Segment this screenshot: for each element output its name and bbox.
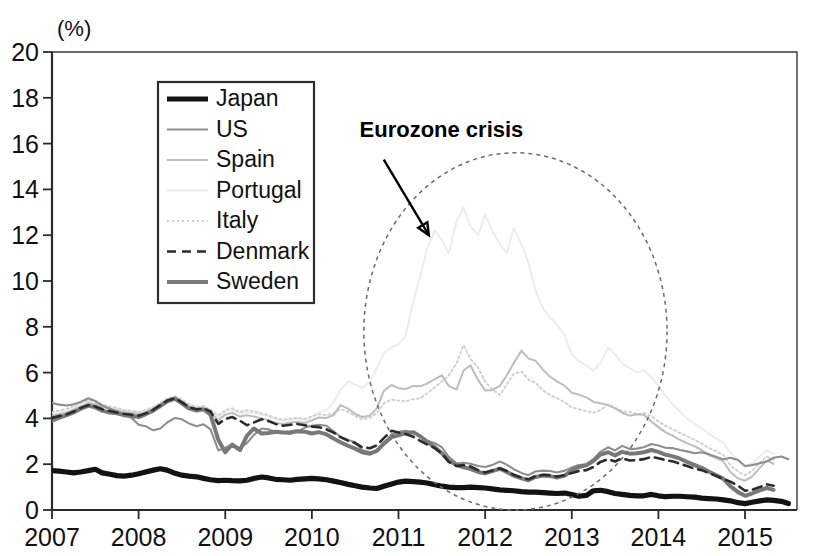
x-axis: 200720082009201020112012201320142015 bbox=[24, 510, 773, 551]
y-tick-label: 8 bbox=[25, 313, 39, 341]
crisis-highlight-ellipse bbox=[364, 153, 667, 510]
x-tick-label: 2010 bbox=[284, 523, 340, 551]
y-tick-label: 10 bbox=[11, 267, 39, 295]
x-tick-label: 2007 bbox=[24, 523, 80, 551]
series-line-spain bbox=[52, 351, 774, 481]
x-tick-label: 2008 bbox=[111, 523, 167, 551]
x-tick-label: 2013 bbox=[544, 523, 600, 551]
crisis-annotation-label: Eurozone crisis bbox=[360, 117, 524, 142]
y-tick-label: 16 bbox=[11, 130, 39, 158]
legend-label-denmark: Denmark bbox=[216, 238, 310, 264]
legend-label-spain: Spain bbox=[216, 146, 275, 172]
legend-label-japan: Japan bbox=[216, 85, 279, 111]
y-axis: 02468101214161820 bbox=[11, 38, 52, 524]
y-tick-label: 18 bbox=[11, 84, 39, 112]
x-tick-label: 2014 bbox=[631, 523, 687, 551]
y-tick-label: 2 bbox=[25, 450, 39, 478]
x-tick-label: 2009 bbox=[197, 523, 253, 551]
y-tick-label: 14 bbox=[11, 175, 39, 203]
chart-legend: JapanUSSpainPortugalItalyDenmarkSweden bbox=[158, 82, 314, 303]
y-tick-label: 4 bbox=[25, 404, 39, 432]
y-tick-label: 12 bbox=[11, 221, 39, 249]
y-tick-label: 20 bbox=[11, 38, 39, 66]
chart-container: (%) 02468101214161820 200720082009201020… bbox=[0, 0, 815, 556]
series-line-japan bbox=[52, 469, 788, 504]
legend-label-italy: Italy bbox=[216, 207, 259, 233]
x-tick-label: 2012 bbox=[457, 523, 513, 551]
crisis-arrow-head bbox=[418, 222, 429, 235]
series-line-denmark bbox=[52, 398, 774, 491]
crisis-arrow-line bbox=[384, 160, 429, 236]
x-tick-label: 2011 bbox=[372, 523, 426, 551]
legend-label-portugal: Portugal bbox=[216, 177, 302, 203]
y-tick-label: 6 bbox=[25, 359, 39, 387]
y-tick-label: 0 bbox=[25, 496, 39, 524]
x-tick-label: 2015 bbox=[717, 523, 773, 551]
legend-label-us: US bbox=[216, 116, 248, 142]
line-chart: (%) 02468101214161820 200720082009201020… bbox=[0, 0, 815, 556]
legend-label-sweden: Sweden bbox=[216, 268, 299, 294]
y-axis-unit-label: (%) bbox=[57, 16, 91, 41]
